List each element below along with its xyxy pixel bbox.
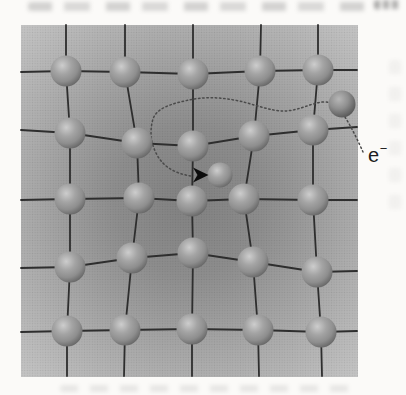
lattice-atom [302, 257, 333, 288]
electron-label-base: e [368, 144, 379, 166]
lattice-atom [110, 57, 141, 88]
lattice-atom [178, 59, 209, 90]
lattice-atom [55, 184, 86, 215]
lattice-atom [238, 247, 269, 278]
lattice-atom [55, 118, 86, 149]
lattice-atom [124, 183, 155, 214]
lattice-atom [110, 315, 141, 346]
lattice-atom [51, 56, 82, 87]
lattice-atom [178, 131, 209, 162]
electron-label: e− [368, 143, 387, 166]
lattice-atom [245, 56, 276, 87]
lattice-atom [298, 115, 329, 146]
lattice-atom [52, 316, 83, 347]
lattice-figure-svg [0, 0, 406, 395]
lattice-atom [177, 186, 208, 217]
lattice-atom [55, 252, 86, 283]
lattice-atom [243, 315, 274, 346]
electron-label-superscript-minus: − [380, 141, 388, 156]
lattice-atom [178, 238, 209, 269]
lattice-atom [306, 317, 337, 348]
lattice-atom [177, 314, 208, 345]
lattice-atom [117, 243, 148, 274]
lattice-atom [303, 55, 334, 86]
lattice-atom [239, 121, 270, 152]
incoming-electron-sphere [329, 91, 356, 118]
lattice-atom [298, 185, 329, 216]
lattice-atom [229, 184, 260, 215]
scanned-page: e− [0, 0, 406, 395]
trapped-electron-sphere [208, 163, 233, 188]
lattice-atom [122, 128, 153, 159]
